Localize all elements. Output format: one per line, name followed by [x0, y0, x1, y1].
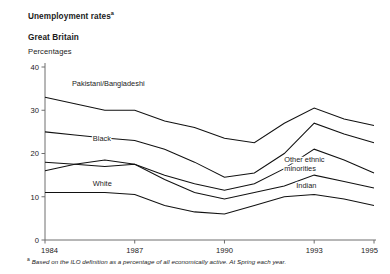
x-tick-label: 1984	[41, 246, 58, 255]
series-label-black: Black	[93, 134, 111, 143]
series-label-white: White	[93, 179, 112, 188]
unemployment-rates-line-chart: 01020304019841987199019931995Pakistani/B…	[0, 0, 390, 274]
series-label-indian: Indian	[296, 181, 316, 190]
series-line-black	[45, 123, 374, 177]
y-tick-label: 40	[31, 63, 39, 72]
series-label-other-ethnic-minorities: minorities	[284, 164, 316, 173]
y-tick-label: 30	[31, 106, 39, 115]
y-tick-label: 20	[31, 149, 39, 158]
footnote-marker: a	[27, 256, 30, 262]
x-tick-label: 1993	[306, 246, 323, 255]
x-tick-label: 1995	[361, 246, 378, 255]
footnote-text: Based on the ILO definition as a percent…	[32, 258, 287, 265]
x-tick-label: 1990	[216, 246, 233, 255]
y-tick-label: 0	[35, 236, 39, 245]
series-label-pakistani-bangladeshi: Pakistani/Bangladeshi	[72, 79, 145, 88]
chart-footnote: a Based on the ILO definition as a perce…	[27, 256, 286, 265]
x-tick-label: 1987	[126, 246, 143, 255]
y-tick-label: 10	[31, 193, 39, 202]
